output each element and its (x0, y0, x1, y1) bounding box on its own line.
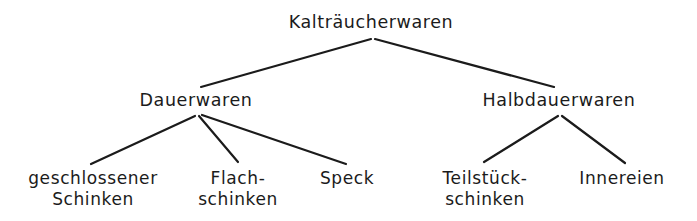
edge-root-dauerwaren (201, 39, 371, 87)
node-label-line: Kalträucherwaren (289, 12, 454, 33)
node-label-line: Dauerwaren (140, 90, 253, 111)
node-teilstueckschinken: Teilstück-schinken (442, 168, 527, 210)
node-root: Kalträucherwaren (289, 12, 454, 33)
taxonomy-tree-diagram: Kalträucherwaren Dauerwaren Halbdauerwar… (0, 0, 697, 221)
edge-dauerwaren-speck (202, 115, 346, 164)
edge-halbdauerwaren-teilstueck (484, 116, 558, 162)
node-flachschinken: Flach-schinken (198, 168, 278, 210)
node-label-line: geschlossener (28, 168, 158, 189)
node-label-line: Schinken (28, 189, 158, 210)
node-label-line: Halbdauerwaren (483, 90, 636, 111)
node-label-line: Speck (320, 168, 374, 189)
node-dauerwaren: Dauerwaren (140, 90, 253, 111)
node-label-line: Flach- (198, 168, 278, 189)
edge-dauerwaren-geschlossener (91, 116, 195, 164)
node-label-line: Teilstück- (442, 168, 527, 189)
node-geschlossener-schinken: geschlossenerSchinken (28, 168, 158, 210)
node-innereien: Innereien (579, 168, 664, 189)
node-halbdauerwaren: Halbdauerwaren (483, 90, 636, 111)
edge-halbdauerwaren-innereien (562, 116, 625, 163)
node-label-line: Innereien (579, 168, 664, 189)
node-label-line: schinken (198, 189, 278, 210)
edge-root-halbdauerwaren (375, 39, 554, 87)
node-label-line: schinken (442, 189, 527, 210)
node-speck: Speck (320, 168, 374, 189)
edge-dauerwaren-flachschinken (199, 116, 238, 162)
